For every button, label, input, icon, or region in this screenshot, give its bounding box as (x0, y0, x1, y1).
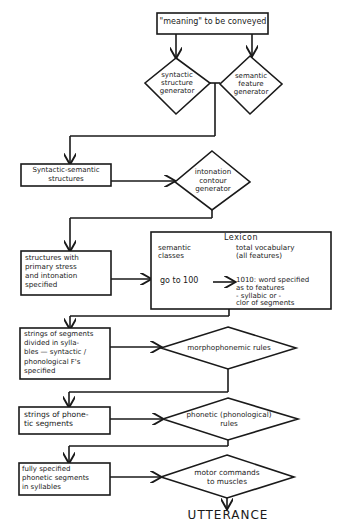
full-segments-label: fully specified phonetic segments in syl… (22, 465, 110, 492)
morphophonemic-label: morphophonemic rules (170, 344, 288, 353)
intonation-generator-label: intonation contour generator (185, 168, 241, 194)
lexicon-col2-header: total vocabulary (all features) (236, 244, 331, 260)
semantic-generator-label: semantic feature generator (224, 72, 278, 96)
stress-structures-label: structures with primary stress and inton… (25, 253, 111, 289)
utterance-label: UTTERANCE (180, 511, 276, 520)
syntactic-generator-label: syntactic structure generator (150, 71, 204, 95)
lexicon-col1-header: semantic classes (158, 244, 218, 260)
lexicon-title: Lexicon (151, 234, 331, 243)
phonetic-strings-label: strings of phone- tic segments (24, 410, 110, 428)
lexicon-col1-value: go to 100 (160, 277, 220, 286)
motor-commands-label: motor commands to muscles (175, 468, 279, 486)
lexicon-col2-value: 1010: word specified as to features - sy… (236, 277, 331, 308)
phonetic-rules-label: phonetic (phonological) rules (172, 411, 286, 428)
segment-strings-label: strings of segments divided in sylla- bl… (24, 330, 110, 376)
start-label: "meaning" to be conveyed (158, 18, 268, 27)
syntactic-semantic-label: Syntactic-semantic structures (22, 166, 110, 183)
